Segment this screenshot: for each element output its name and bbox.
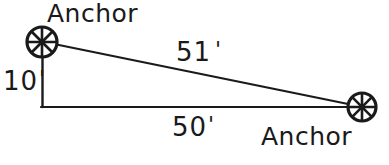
bottom-right-anchor-icon bbox=[348, 93, 376, 121]
dimension-hypotenuse-value: 51 bbox=[176, 37, 211, 67]
dimension-base-unit: ' bbox=[207, 112, 215, 137]
top-left-anchor-icon bbox=[27, 27, 57, 57]
anchor-label-bottom: Anchor bbox=[261, 124, 352, 149]
dimension-height-value: 10 bbox=[3, 66, 38, 96]
dimension-label-hypotenuse: 51' bbox=[176, 39, 222, 65]
dimension-label-height: 10' bbox=[3, 68, 46, 94]
dimension-label-base: 50' bbox=[172, 114, 215, 140]
dimension-hypotenuse-unit: ' bbox=[211, 37, 222, 62]
anchor-span-diagram: Anchor Anchor 10' 51' 50' bbox=[0, 0, 389, 165]
dimension-base-value: 50 bbox=[172, 112, 207, 142]
anchor-label-top: Anchor bbox=[47, 1, 138, 26]
dimension-height-unit: ' bbox=[38, 66, 46, 91]
